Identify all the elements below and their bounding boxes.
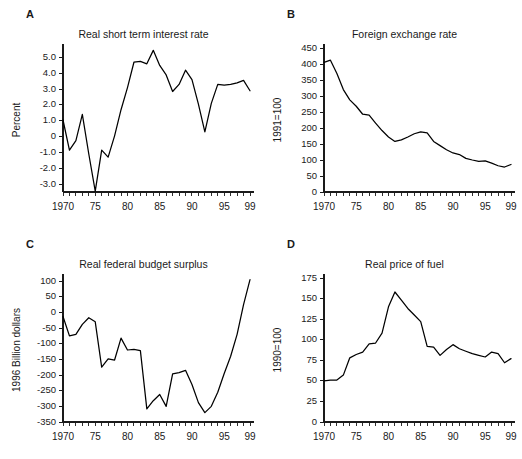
figure-panel-grid: A Real short term interest rate 5.04.03.…	[0, 0, 522, 459]
x-axis-tick-label: 75	[351, 201, 363, 212]
y-axis-title: 1991=100	[272, 97, 283, 142]
x-axis-tick-label: 80	[122, 431, 134, 442]
y-axis-tick-label: -350	[37, 416, 56, 427]
panel-title-b: Foreign exchange rate	[261, 28, 522, 40]
x-axis-tick-label: 90	[447, 201, 459, 212]
x-axis-tick-label: 99	[505, 201, 517, 212]
y-axis-tick-label: 450	[301, 42, 317, 53]
x-axis-tick-label: 80	[122, 201, 134, 212]
y-axis-tick-label: 75	[306, 354, 317, 365]
y-axis-tick-label: 200	[301, 122, 317, 133]
panel-letter-a: A	[26, 8, 34, 20]
x-axis-tick-label: 99	[244, 201, 256, 212]
y-axis-tick-label: -250	[37, 384, 56, 395]
y-axis-tick-label: -200	[37, 369, 56, 380]
y-axis-tick-label: 50	[306, 374, 317, 385]
y-axis-title: 1996 Billion dollars	[11, 308, 22, 392]
chart-panel-c: C Real federal budget surplus 100500-50-…	[0, 230, 261, 459]
y-axis-tick-label: 4.0	[43, 67, 56, 78]
x-axis-tick-label: 99	[244, 431, 256, 442]
y-axis-tick-label: 150	[301, 292, 317, 303]
x-axis-tick-label: 1970	[313, 201, 336, 212]
x-axis-tick-label: 1970	[313, 431, 336, 442]
data-series-line	[63, 50, 250, 191]
y-axis-tick-label: -3.0	[40, 178, 56, 189]
x-axis-tick-label: 95	[219, 431, 231, 442]
panel-letter-b: B	[287, 8, 295, 20]
x-axis-tick-label: 90	[186, 201, 198, 212]
y-axis-tick-label: 0	[312, 186, 317, 197]
x-axis-tick-label: 85	[415, 431, 427, 442]
panel-letter-d: D	[287, 238, 295, 250]
data-series-line	[324, 292, 511, 381]
x-axis-tick-label: 80	[383, 201, 395, 212]
chart-panel-a: A Real short term interest rate 5.04.03.…	[0, 0, 261, 229]
y-axis-tick-label: -100	[37, 337, 56, 348]
y-axis-tick-label: 300	[301, 90, 317, 101]
x-axis-tick-label: 95	[480, 431, 492, 442]
y-axis-tick-label: 25	[306, 395, 317, 406]
x-axis-tick-label: 85	[415, 201, 427, 212]
x-axis-tick-label: 75	[351, 431, 363, 442]
x-axis-tick-label: 90	[186, 431, 198, 442]
y-axis-tick-label: 1.0	[43, 114, 56, 125]
chart-plot-b: 4504003503002502001501005001970758085909…	[272, 42, 517, 212]
chart-plot-c: 100500-50-100-150-200-250-300-3501970758…	[11, 274, 256, 442]
x-axis-tick-label: 95	[480, 201, 492, 212]
y-axis-tick-label: 0	[51, 130, 56, 141]
y-axis-tick-label: 50	[45, 290, 56, 301]
x-axis-tick-label: 95	[219, 201, 231, 212]
y-axis-tick-label: 0	[51, 306, 56, 317]
y-axis-title: Percent	[11, 103, 22, 138]
y-axis-tick-label: 250	[301, 106, 317, 117]
x-axis-tick-label: 75	[90, 201, 102, 212]
x-axis-tick-label: 1970	[52, 431, 75, 442]
data-series-line	[63, 280, 250, 413]
y-axis-tick-label: -50	[42, 322, 56, 333]
x-axis-tick-label: 75	[90, 431, 102, 442]
chart-panel-b: B Foreign exchange rate 4504003503002502…	[261, 0, 522, 229]
x-axis-tick-label: 90	[447, 431, 459, 442]
y-axis-tick-label: 3.0	[43, 83, 56, 94]
x-axis-tick-label: 99	[505, 431, 517, 442]
x-axis-tick-label: 85	[154, 431, 166, 442]
y-axis-tick-label: 100	[301, 333, 317, 344]
x-axis-tick-label: 85	[154, 201, 166, 212]
data-series-line	[324, 60, 511, 167]
y-axis-tick-label: 350	[301, 74, 317, 85]
y-axis-tick-label: 175	[301, 272, 317, 283]
y-axis-tick-label: 50	[306, 170, 317, 181]
panel-letter-c: C	[26, 238, 34, 250]
y-axis-tick-label: 2.0	[43, 98, 56, 109]
y-axis-tick-label: 0	[312, 416, 317, 427]
y-axis-tick-label: 150	[301, 138, 317, 149]
y-axis-tick-label: -1.0	[40, 146, 56, 157]
x-axis-tick-label: 1970	[52, 201, 75, 212]
y-axis-title: 1990=100	[272, 327, 283, 372]
panel-title-c: Real federal budget surplus	[0, 258, 261, 270]
y-axis-tick-label: -2.0	[40, 162, 56, 173]
chart-panel-d: D Real price of fuel 1751501251007550250…	[261, 230, 522, 459]
y-axis-tick-label: -300	[37, 400, 56, 411]
chart-plot-a: 5.04.03.02.01.00-1.0-2.0-3.0197075808590…	[11, 44, 256, 212]
y-axis-tick-label: 5.0	[43, 51, 56, 62]
panel-title-a: Real short term interest rate	[0, 28, 261, 40]
panel-title-d: Real price of fuel	[261, 258, 522, 270]
chart-plot-d: 175150125100755025019707580859095991990=…	[272, 272, 517, 442]
y-axis-tick-label: 100	[40, 275, 56, 286]
x-axis-tick-label: 80	[383, 431, 395, 442]
y-axis-tick-label: -150	[37, 353, 56, 364]
y-axis-tick-label: 400	[301, 58, 317, 69]
y-axis-tick-label: 100	[301, 154, 317, 165]
y-axis-tick-label: 125	[301, 313, 317, 324]
